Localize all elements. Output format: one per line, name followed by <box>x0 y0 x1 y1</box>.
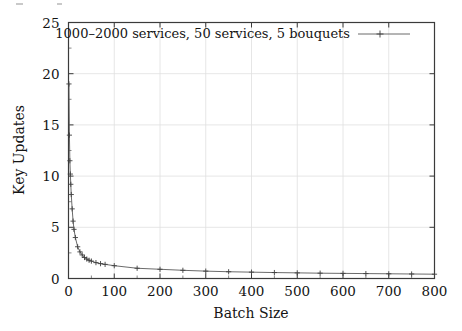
data-point-marker <box>135 266 140 271</box>
x-tick-label: 100 <box>101 283 127 299</box>
y-tick-label: 0 <box>51 271 60 287</box>
x-tick-label: 0 <box>64 283 73 299</box>
y-tick-label: 15 <box>42 117 59 133</box>
y-tick-label: 20 <box>42 66 59 82</box>
data-point-marker <box>363 271 368 276</box>
y-axis-tick-labels: 0510152025 <box>42 15 59 287</box>
data-point-marker <box>180 268 185 273</box>
data-point-marker <box>203 269 208 274</box>
data-point-marker <box>226 269 231 274</box>
data-point-marker <box>75 244 80 249</box>
data-point-marker <box>112 263 117 268</box>
data-point-marker <box>249 270 254 275</box>
data-point-marker <box>69 192 74 197</box>
x-tick-label: 200 <box>147 283 173 299</box>
data-point-marker <box>318 271 323 276</box>
data-point-marker <box>86 258 91 263</box>
gridlines <box>69 23 435 279</box>
data-point-marker <box>66 81 71 86</box>
data-point-marker <box>93 260 98 265</box>
data-point-marker <box>98 261 103 266</box>
legend-sample <box>358 31 410 38</box>
data-point-marker <box>432 272 437 277</box>
chart-figure: 0100200300400500600700800 0510152025 100… <box>0 0 462 331</box>
data-point-marker <box>340 271 345 276</box>
legend: 1000–2000 services, 50 services, 5 bouqu… <box>55 26 410 41</box>
data-point-marker <box>89 258 94 263</box>
line-chart: 0100200300400500600700800 0510152025 100… <box>0 0 462 331</box>
y-tick-label: 5 <box>51 219 60 235</box>
data-point-marker <box>70 219 75 224</box>
x-tick-label: 600 <box>330 283 356 299</box>
data-point-marker <box>73 235 78 240</box>
y-axis-title: Key Updates <box>11 105 27 195</box>
x-tick-label: 700 <box>376 283 402 299</box>
x-axis-tick-labels: 0100200300400500600700800 <box>64 283 447 299</box>
x-tick-label: 500 <box>284 283 310 299</box>
data-point-marker <box>70 206 75 211</box>
data-point-marker <box>295 270 300 275</box>
plus-marker-icon <box>377 31 384 38</box>
x-tick-label: 300 <box>193 283 219 299</box>
y-tick-label: 10 <box>42 168 59 184</box>
minor-tickmarks <box>69 48 412 278</box>
scan-artifacts <box>16 3 62 5</box>
x-tick-label: 400 <box>239 283 265 299</box>
x-tick-label: 800 <box>422 283 448 299</box>
data-point-marker <box>157 267 162 272</box>
data-point-marker <box>67 133 72 138</box>
data-point-marker <box>386 271 391 276</box>
x-axis-title: Batch Size <box>213 305 288 321</box>
data-point-marker <box>272 270 277 275</box>
legend-label: 1000–2000 services, 50 services, 5 bouqu… <box>55 26 350 41</box>
data-point-marker <box>103 262 108 267</box>
data-point-marker <box>409 271 414 276</box>
